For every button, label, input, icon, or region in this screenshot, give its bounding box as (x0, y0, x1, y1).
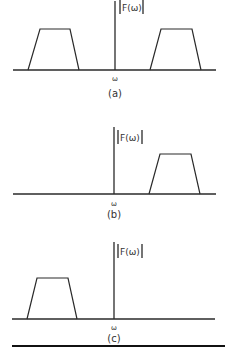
magnitude-label: F(ω) (120, 247, 140, 257)
panel-caption: (a) (108, 88, 122, 99)
positive-band-trapezoid (149, 154, 200, 194)
omega-label: ω (111, 200, 117, 208)
omega-label: ω (112, 75, 118, 83)
panel-caption: (b) (107, 209, 121, 220)
magnitude-label: F(ω) (122, 3, 142, 13)
panel-b: F(ω) ω (b) (13, 127, 216, 220)
panel-caption: (c) (107, 333, 120, 344)
omega-label: ω (111, 324, 117, 332)
panel-c: F(ω) ω (c) (12, 242, 215, 344)
negative-band-trapezoid (27, 278, 77, 319)
panel-a: F(ω) ω (a) (13, 0, 216, 99)
negative-band-trapezoid (28, 29, 79, 70)
magnitude-label: F(ω) (120, 133, 140, 143)
spectrum-diagram: F(ω) ω (a) F(ω) ω (b) F(ω) ω (c) (0, 0, 226, 357)
positive-band-trapezoid (150, 29, 201, 70)
